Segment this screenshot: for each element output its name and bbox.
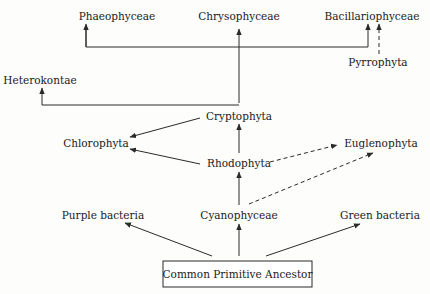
- edge-rhodophyta-chlorophyta: [130, 149, 200, 164]
- node-rhodophyta: Rhodophyta: [207, 157, 271, 169]
- node-chlorophyta: Chlorophyta: [63, 137, 129, 149]
- edge-ancestor-purple-bacteria: [125, 223, 212, 256]
- edge-rhodophyta-euglenophyta: [270, 145, 337, 162]
- edge-ancestor-green-bacteria: [266, 224, 360, 256]
- node-purple-bacteria: Purple bacteria: [62, 209, 144, 221]
- node-cryptophyta: Cryptophyta: [206, 110, 272, 122]
- node-phaeophyceae: Phaeophyceae: [79, 10, 156, 22]
- node-green-bacteria: Green bacteria: [340, 209, 420, 221]
- node-chrysophyceae: Chrysophyceae: [198, 10, 279, 22]
- phylogeny-diagram: Phaeophyceae Chrysophyceae Bacillariophy…: [0, 0, 430, 294]
- node-euglenophyta: Euglenophyta: [344, 137, 418, 149]
- diagram-svg: Phaeophyceae Chrysophyceae Bacillariophy…: [0, 0, 430, 294]
- node-pyrrophyta: Pyrrophyta: [348, 56, 407, 68]
- node-heterokontae: Heterokontae: [3, 74, 76, 86]
- node-cyanophyceae: Cyanophyceae: [200, 209, 277, 221]
- node-bacillariophyceae: Bacillariophyceae: [325, 10, 420, 22]
- edge-cryptophyta-chlorophyta: [130, 118, 200, 137]
- edge-cryptophyta-heterokontae: [42, 88, 239, 105]
- node-common-primitive-ancestor: Common Primitive Ancestor: [163, 268, 314, 280]
- edge-bar-bacillariophyceae: [86, 24, 368, 47]
